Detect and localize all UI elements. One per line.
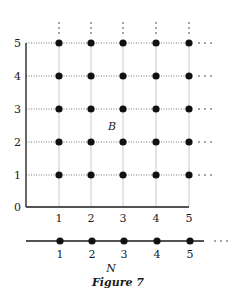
figure-canvas: 0 1 2 3 4 5 1 2 3 4 5 B 1 bbox=[0, 0, 236, 294]
n-tick-4: 4 bbox=[154, 248, 161, 261]
y-tick-2: 2 bbox=[14, 136, 21, 149]
vertical-ellipsis-marks bbox=[58, 22, 190, 34]
x-tick-2: 2 bbox=[88, 212, 95, 225]
y-tick-labels: 0 1 2 3 4 5 bbox=[14, 37, 21, 214]
y-tick-0: 0 bbox=[14, 201, 21, 214]
x-tick-labels: 1 2 3 4 5 bbox=[56, 212, 193, 225]
figure-caption: Figure 7 bbox=[91, 276, 144, 289]
y-tick-3: 3 bbox=[14, 103, 21, 116]
n-tick-3: 3 bbox=[121, 248, 128, 261]
x-tick-1: 1 bbox=[56, 212, 63, 225]
horizontal-grid-lines bbox=[26, 43, 189, 175]
n-tick-1: 1 bbox=[57, 248, 64, 261]
lattice-points-b bbox=[55, 39, 192, 178]
y-tick-5: 5 bbox=[14, 37, 21, 50]
x-tick-5: 5 bbox=[186, 212, 193, 225]
number-line-tick-labels: 1 2 3 4 5 bbox=[57, 248, 194, 261]
number-line-label-n: N bbox=[105, 262, 116, 275]
x-tick-4: 4 bbox=[153, 212, 160, 225]
figure-7: 0 1 2 3 4 5 1 2 3 4 5 B 1 bbox=[0, 0, 236, 294]
y-tick-1: 1 bbox=[14, 169, 21, 182]
vertical-grid-lines bbox=[59, 43, 189, 207]
n-tick-2: 2 bbox=[89, 248, 96, 261]
y-tick-4: 4 bbox=[14, 70, 21, 83]
n-tick-5: 5 bbox=[187, 248, 194, 261]
horizontal-ellipsis-marks bbox=[198, 42, 212, 176]
x-tick-3: 3 bbox=[120, 212, 127, 225]
lattice-label-b: B bbox=[107, 120, 116, 133]
number-line-ellipsis bbox=[214, 240, 228, 242]
